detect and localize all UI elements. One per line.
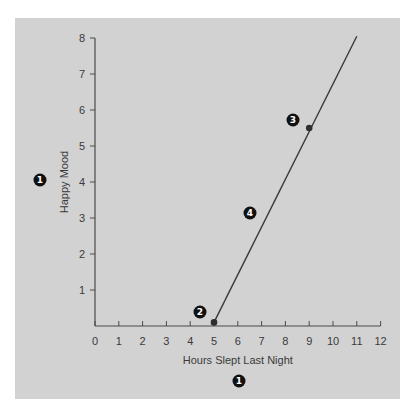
data-point	[306, 125, 313, 132]
marker-1-y-label: 1	[37, 175, 43, 185]
x-tick-label: 10	[327, 335, 339, 347]
x-tick-label: 9	[306, 335, 312, 347]
x-tick-label: 2	[140, 335, 146, 347]
x-tick-label: 0	[92, 335, 98, 347]
marker-3-label: 3	[290, 115, 296, 125]
y-tick-label: 6	[79, 104, 85, 116]
y-tick-label: 1	[79, 284, 85, 296]
y-tick-label: 7	[79, 68, 85, 80]
x-tick-label: 1	[116, 335, 122, 347]
chart-svg: 012345678910111212345678Hours Slept Last…	[0, 0, 416, 412]
x-tick-label: 11	[351, 335, 362, 347]
x-tick-label: 12	[374, 335, 386, 347]
x-tick-label: 7	[259, 335, 265, 347]
marker-1-x-label: 1	[236, 376, 242, 386]
data-line	[214, 36, 357, 322]
y-tick-label: 4	[79, 176, 85, 188]
y-tick-label: 5	[79, 140, 85, 152]
x-tick-label: 8	[282, 335, 288, 347]
y-axis-label: Happy Mood	[58, 151, 70, 213]
y-tick-label: 2	[79, 248, 85, 260]
y-tick-label: 3	[79, 212, 85, 224]
y-tick-label: 8	[79, 32, 85, 44]
marker-2-label: 2	[197, 307, 203, 317]
marker-4-label: 4	[247, 208, 253, 218]
data-point	[211, 319, 218, 326]
x-tick-label: 3	[163, 335, 169, 347]
x-tick-label: 5	[211, 335, 217, 347]
x-tick-label: 6	[235, 335, 241, 347]
x-axis-label: Hours Slept Last Night	[183, 354, 293, 366]
x-tick-label: 4	[187, 335, 193, 347]
